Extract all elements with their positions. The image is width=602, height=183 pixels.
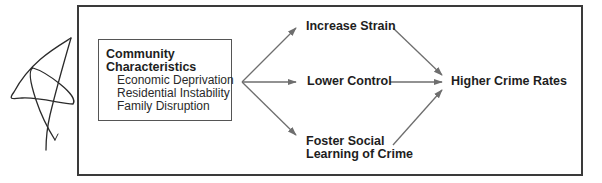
arrow-source-to-social <box>242 82 296 135</box>
source-item-list: Economic Deprivation Residential Instabi… <box>106 74 231 113</box>
arrow-strain-to-outcome <box>393 28 442 75</box>
node-increase-strain-label: Increase Strain <box>306 20 396 33</box>
source-title: Community Characteristics <box>106 48 216 74</box>
diagram-arrows <box>0 0 602 183</box>
node-higher-crime-rates: Higher Crime Rates <box>451 75 567 88</box>
node-increase-strain: Increase Strain <box>306 20 396 33</box>
node-lower-control-label: Lower Control <box>307 75 392 88</box>
source-item-family-disruption: Family Disruption <box>117 100 231 113</box>
node-higher-crime-rates-label: Higher Crime Rates <box>451 75 567 88</box>
node-lower-control: Lower Control <box>307 75 392 88</box>
community-characteristics-box: Community Characteristics Economic Depri… <box>98 39 232 121</box>
node-foster-social-learning: Foster Social Learning of Crime <box>306 135 413 161</box>
arrow-source-to-strain <box>242 28 296 82</box>
node-foster-social-learning-line-2: Learning of Crime <box>306 148 413 161</box>
